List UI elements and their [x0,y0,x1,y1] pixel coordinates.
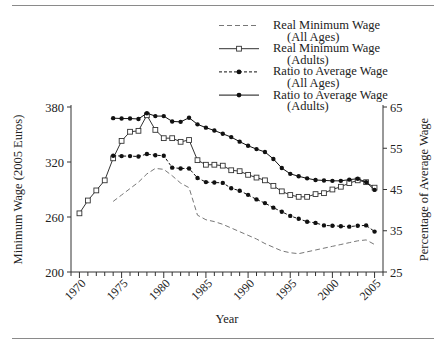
series-marker-1 [305,194,310,199]
series-marker-3 [229,135,233,139]
y-tick-label-right: 65 [390,101,403,115]
series-marker-1 [85,198,90,203]
x-axis-title: Year [215,312,239,326]
series-marker-3 [136,117,140,121]
series-marker-1 [212,162,217,167]
series-marker-2 [246,193,250,197]
series-marker-1 [128,129,133,134]
y-tick-label-right: 25 [390,266,403,280]
x-tick-label: 2005 [357,276,384,303]
series-marker-3 [322,178,326,182]
legend-marker-3 [237,93,242,98]
series-marker-1 [161,136,166,141]
x-tick-label: 1985 [188,276,215,303]
series-marker-3 [237,139,241,143]
series-marker-1 [178,139,183,144]
series-marker-2 [187,166,191,170]
series-marker-2 [221,181,225,185]
series-marker-2 [296,217,300,221]
legend-marker-1 [237,46,242,51]
series-marker-2 [204,180,208,184]
series-marker-1 [195,158,200,163]
series-line-1 [79,115,374,213]
line-chart: 2002603203802535455565197019751980198519… [0,0,446,346]
series-marker-2 [372,229,376,233]
series-marker-1 [279,189,284,194]
series-marker-3 [128,116,132,120]
series-marker-2 [322,223,326,227]
series-marker-2 [178,166,182,170]
series-marker-3 [280,166,284,170]
top-horizontal-rule [12,5,434,6]
series-marker-2 [119,154,123,158]
series-marker-2 [280,210,284,214]
series-marker-3 [347,177,351,181]
series-marker-2 [170,165,174,169]
series-marker-2 [136,154,140,158]
series-marker-1 [187,138,192,143]
series-marker-2 [288,214,292,218]
series-marker-2 [339,224,343,228]
series-marker-1 [220,163,225,168]
y-tick-label-left: 320 [45,156,64,170]
y-tick-label-right: 35 [390,224,403,238]
series-marker-3 [330,179,334,183]
series-marker-2 [347,224,351,228]
series-marker-1 [119,139,124,144]
x-tick-label: 1995 [272,276,299,303]
x-tick-label: 1975 [104,276,131,303]
series-marker-2 [128,154,132,158]
series-marker-3 [195,122,199,126]
series-marker-3 [145,111,149,115]
series-marker-1 [246,172,251,177]
y-tick-label-right: 55 [390,142,403,156]
x-tick-label: 1970 [62,276,89,303]
legend-marker-2 [237,70,242,75]
series-marker-3 [372,188,376,192]
series-marker-3 [221,132,225,136]
y-tick-label-left: 260 [45,211,64,225]
x-tick-label: 2000 [315,276,342,303]
series-marker-2 [111,153,115,157]
series-marker-3 [246,144,250,148]
series-marker-2 [229,186,233,190]
series-marker-3 [119,116,123,120]
series-marker-2 [162,153,166,157]
y-tick-label-right: 45 [390,183,403,197]
series-marker-1 [263,178,268,183]
series-marker-1 [136,128,141,133]
x-tick-label: 1990 [230,276,257,303]
series-marker-2 [305,219,309,223]
series-marker-2 [330,224,334,228]
series-marker-1 [204,162,209,167]
y-axis-title-left: Minimum Wage (2005 Euros) [11,115,25,265]
series-marker-2 [195,176,199,180]
series-marker-3 [187,116,191,120]
series-marker-1 [338,184,343,189]
series-marker-2 [263,201,267,205]
series-marker-3 [212,128,216,132]
series-marker-3 [162,114,166,118]
series-marker-3 [111,116,115,120]
series-marker-1 [322,191,327,196]
y-axis-title-right: Percentage of Average Wage [417,117,431,261]
series-marker-2 [356,224,360,228]
series-marker-1 [229,168,234,173]
series-marker-1 [330,187,335,192]
series-marker-1 [170,136,175,141]
series-marker-1 [313,192,318,197]
series-marker-2 [153,153,157,157]
series-marker-3 [204,125,208,129]
y-tick-label-left: 380 [45,101,64,115]
series-marker-3 [254,147,258,151]
series-marker-2 [237,189,241,193]
bottom-horizontal-rule [12,338,434,339]
series-marker-2 [145,152,149,156]
x-tick-label: 1980 [146,276,173,303]
series-marker-1 [271,183,276,188]
series-marker-1 [94,188,99,193]
series-marker-2 [271,205,275,209]
series-marker-3 [170,119,174,123]
series-marker-2 [254,197,258,201]
series-marker-2 [313,221,317,225]
